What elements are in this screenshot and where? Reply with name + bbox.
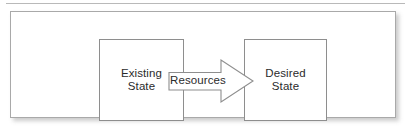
node-existing-state-label-line-2: State	[128, 80, 155, 94]
node-desired-state: Desired State	[244, 39, 327, 121]
node-existing-state-label-line-1: Existing	[121, 67, 162, 81]
diagram-panel: Existing State Desired State Resources	[10, 11, 396, 118]
node-desired-state-label-line-2: State	[272, 80, 299, 94]
diagram-canvas: Existing State Desired State Resources	[0, 0, 411, 134]
node-desired-state-label-line-1: Desired	[265, 67, 305, 81]
resources-arrow-label: Resources	[168, 72, 228, 90]
top-divider-rule	[6, 3, 405, 4]
